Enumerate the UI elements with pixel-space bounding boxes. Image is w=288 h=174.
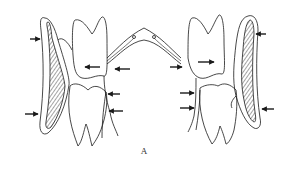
left-flange — [40, 18, 72, 134]
palatal-bar — [107, 28, 181, 64]
right-flange — [231, 16, 260, 129]
right-upper-molar — [188, 15, 225, 78]
right-lower-molar — [188, 78, 237, 144]
figure-caption: A — [0, 146, 288, 156]
left-upper-molar — [72, 17, 107, 78]
